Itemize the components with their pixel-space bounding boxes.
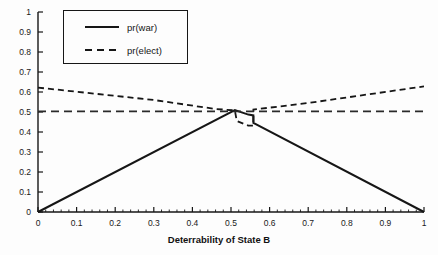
y-tick-label: 1 — [0, 8, 31, 17]
legend-item-pr-elect: pr(elect) — [64, 42, 187, 58]
x-tick-label: 1 — [410, 219, 438, 228]
y-tick-label: 0.3 — [0, 148, 31, 157]
legend-item-pr-war: pr(war) — [64, 19, 187, 35]
x-tick-label: 0.9 — [371, 219, 399, 228]
y-tick-label: 0.9 — [0, 28, 31, 37]
y-tick-label: 0.1 — [0, 188, 31, 197]
legend-line-sample-solid-icon — [85, 22, 119, 32]
x-tick-label: 0.6 — [256, 219, 284, 228]
x-tick-label: 0.5 — [217, 219, 245, 228]
x-tick-label: 0.1 — [63, 219, 91, 228]
x-axis-title: Deterrability of State B — [0, 234, 438, 245]
y-tick-label: 0.7 — [0, 68, 31, 77]
y-tick-label: 0.6 — [0, 88, 31, 97]
x-tick-label: 0 — [24, 219, 52, 228]
legend-line-sample-dashed-icon — [85, 45, 119, 55]
x-tick-label: 0.7 — [294, 219, 322, 228]
x-tick-label: 0.3 — [140, 219, 168, 228]
y-tick-label: 0.5 — [0, 108, 31, 117]
chart-legend: pr(war) pr(elect) — [63, 10, 188, 64]
legend-label-pr-elect: pr(elect) — [127, 45, 162, 56]
x-tick-label: 0.2 — [101, 219, 129, 228]
legend-label-pr-war: pr(war) — [127, 22, 157, 33]
x-tick-label: 0.8 — [333, 219, 361, 228]
y-tick-label: 0 — [0, 208, 31, 217]
y-tick-label: 0.8 — [0, 48, 31, 57]
y-tick-label: 0.4 — [0, 128, 31, 137]
y-tick-label: 0.2 — [0, 168, 31, 177]
x-tick-label: 0.4 — [178, 219, 206, 228]
